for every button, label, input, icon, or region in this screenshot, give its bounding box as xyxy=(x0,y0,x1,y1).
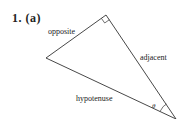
opposite-edge xyxy=(46,15,106,58)
hypotenuse-label: hypotenuse xyxy=(76,94,113,103)
opposite-label: opposite xyxy=(48,27,76,36)
right-triangle-diagram: opposite adjacent hypotenuse θ xyxy=(0,0,182,119)
hypotenuse-edge xyxy=(46,58,176,119)
theta-angle-arc xyxy=(160,104,167,112)
adjacent-label: adjacent xyxy=(140,53,167,62)
theta-label: θ xyxy=(152,102,156,110)
adjacent-edge xyxy=(106,15,176,119)
